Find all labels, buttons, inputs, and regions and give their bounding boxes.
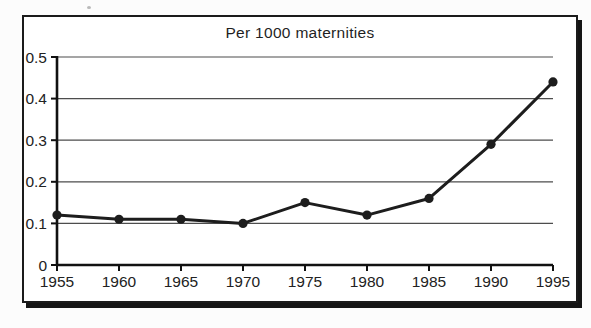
x-tick-label: 1960	[102, 273, 137, 290]
scan-artifact	[87, 6, 91, 9]
chart-figure: Per 1000 maternities 00.10.20.30.40.5195…	[22, 15, 578, 303]
data-point	[52, 210, 61, 219]
data-point	[238, 219, 247, 228]
data-point	[362, 210, 371, 219]
data-point	[548, 77, 557, 86]
y-tick-label: 0	[38, 257, 47, 274]
x-tick-label: 1970	[226, 273, 261, 290]
data-point	[176, 215, 185, 224]
y-tick-label: 0.1	[25, 215, 47, 232]
scanned-page: Per 1000 maternities 00.10.20.30.40.5195…	[0, 0, 591, 328]
y-tick-label: 0.2	[25, 173, 47, 190]
x-tick-label: 1990	[474, 273, 509, 290]
line-chart: 00.10.20.30.40.5195519601965197019751980…	[24, 17, 576, 301]
x-tick-label: 1965	[164, 273, 198, 290]
data-point	[300, 198, 309, 207]
x-tick-label: 1955	[40, 273, 74, 290]
data-point	[424, 194, 433, 203]
x-tick-label: 1980	[350, 273, 385, 290]
data-point	[486, 140, 495, 149]
data-point	[114, 215, 123, 224]
y-tick-label: 0.4	[25, 90, 47, 107]
x-tick-label: 1995	[536, 273, 570, 290]
y-tick-label: 0.5	[25, 49, 47, 66]
x-tick-label: 1975	[288, 273, 322, 290]
y-tick-label: 0.3	[25, 132, 47, 149]
x-tick-label: 1985	[412, 273, 446, 290]
